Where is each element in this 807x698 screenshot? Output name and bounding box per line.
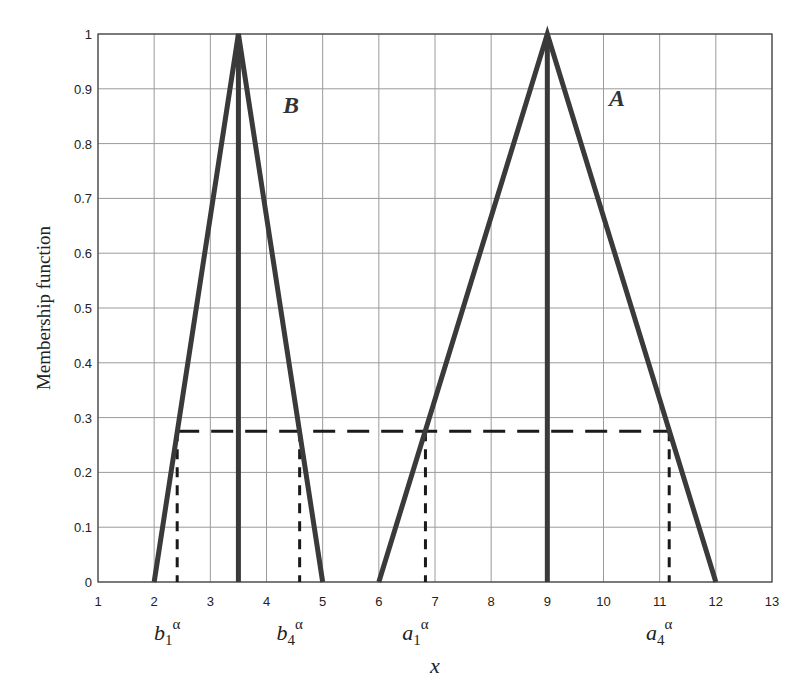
alpha-cut-labels: b1αb4αa1αa4α xyxy=(154,616,673,648)
y-tick-label: 1 xyxy=(85,27,92,42)
x-tick-label: 4 xyxy=(263,594,270,609)
x-tick-label: 9 xyxy=(544,594,551,609)
y-tick-label: 0.7 xyxy=(74,191,92,206)
y-tick-label: 0 xyxy=(85,575,92,590)
x-tick-label: 5 xyxy=(319,594,326,609)
x-tick-label: 12 xyxy=(709,594,723,609)
y-tick-label: 0.8 xyxy=(74,137,92,152)
y-tick-label: 0.2 xyxy=(74,465,92,480)
x-axis-ticks: 12345678910111213 xyxy=(94,594,779,609)
y-tick-label: 0.6 xyxy=(74,246,92,261)
y-tick-label: 0.5 xyxy=(74,301,92,316)
set-label-b: B xyxy=(282,92,299,118)
x-axis-label: x xyxy=(429,653,440,678)
x-tick-label: 1 xyxy=(94,594,101,609)
x-tick-label: 8 xyxy=(488,594,495,609)
alpha-cut-label: a4α xyxy=(646,616,673,648)
y-tick-label: 0.4 xyxy=(74,356,92,371)
x-tick-label: 13 xyxy=(765,594,779,609)
x-tick-label: 2 xyxy=(151,594,158,609)
alpha-cut-lines xyxy=(177,431,669,582)
alpha-cut-label: b4α xyxy=(276,616,303,648)
y-axis-label: Membership function xyxy=(33,225,54,390)
set-label-a: A xyxy=(607,85,625,111)
x-tick-label: 11 xyxy=(653,594,667,609)
alpha-cut-label: b1α xyxy=(154,616,181,648)
membership-function-chart: 00.10.20.30.40.50.60.70.80.91 1234567891… xyxy=(0,0,807,698)
y-axis-ticks: 00.10.20.30.40.50.60.70.80.91 xyxy=(74,27,92,590)
alpha-cut-label: a1α xyxy=(402,616,429,648)
x-tick-label: 6 xyxy=(375,594,382,609)
y-tick-label: 0.3 xyxy=(74,411,92,426)
x-tick-label: 7 xyxy=(431,594,438,609)
x-tick-label: 10 xyxy=(596,594,610,609)
grid-lines xyxy=(98,34,772,582)
y-tick-label: 0.1 xyxy=(74,520,92,535)
y-tick-label: 0.9 xyxy=(74,82,92,97)
x-tick-label: 3 xyxy=(207,594,214,609)
